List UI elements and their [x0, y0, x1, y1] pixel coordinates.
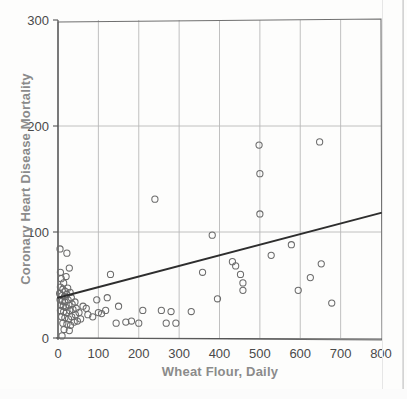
plot-border — [58, 19, 382, 340]
caption-strip — [0, 389, 407, 399]
y-axis-title: Coronary Heart Disease Mortality — [18, 73, 33, 285]
x-tick-label: 500 — [249, 346, 271, 361]
figure-container: 0100200300400500600700800 0100200300 Whe… — [0, 0, 407, 399]
data-point — [209, 232, 215, 238]
data-point — [318, 261, 324, 267]
x-tick-label: 600 — [289, 346, 311, 361]
data-point — [256, 142, 262, 148]
data-point — [94, 297, 100, 303]
x-tick-label: 0 — [54, 346, 61, 361]
x-tick-label: 100 — [88, 346, 110, 361]
data-point — [168, 308, 174, 314]
x-tick-label: 800 — [370, 346, 392, 361]
data-point — [199, 269, 205, 275]
data-point — [152, 196, 158, 202]
x-tick-label: 300 — [168, 346, 190, 361]
grid-lines — [58, 20, 381, 338]
data-point — [240, 287, 246, 293]
data-point — [229, 259, 235, 265]
data-point — [107, 271, 113, 277]
data-point — [64, 250, 70, 256]
data-point — [60, 320, 66, 326]
y-tick-label: 0 — [42, 331, 49, 346]
data-point — [104, 295, 110, 301]
y-tick-label: 300 — [27, 13, 49, 28]
x-tick-label: 200 — [128, 346, 150, 361]
x-axis-line — [56, 338, 382, 339]
data-point — [317, 139, 323, 145]
x-axis-title: Wheat Flour, Daily — [162, 364, 279, 379]
plot-frame — [53, 19, 382, 340]
data-point — [113, 320, 119, 326]
data-point — [307, 274, 313, 280]
data-point — [66, 265, 72, 271]
data-point — [240, 280, 246, 286]
data-point — [288, 242, 294, 248]
data-point — [158, 307, 164, 313]
x-axis-tick-labels: 0100200300400500600700800 — [54, 346, 391, 361]
data-point — [237, 271, 243, 277]
data-point — [233, 263, 239, 269]
data-point — [173, 320, 179, 326]
page-scan-edge — [402, 0, 404, 399]
data-point — [140, 307, 146, 313]
data-point — [123, 319, 129, 325]
x-tick-label: 700 — [330, 346, 352, 361]
data-point — [268, 252, 274, 258]
page-scan-edge-secondary — [382, 0, 383, 399]
data-point — [188, 308, 194, 314]
data-point — [103, 307, 109, 313]
x-tick-label: 400 — [209, 346, 231, 361]
data-point — [329, 300, 335, 306]
scatter-plot: 0100200300400500600700800 0100200300 Whe… — [0, 0, 407, 399]
data-point — [115, 303, 121, 309]
data-point — [128, 318, 134, 324]
data-point — [163, 320, 169, 326]
